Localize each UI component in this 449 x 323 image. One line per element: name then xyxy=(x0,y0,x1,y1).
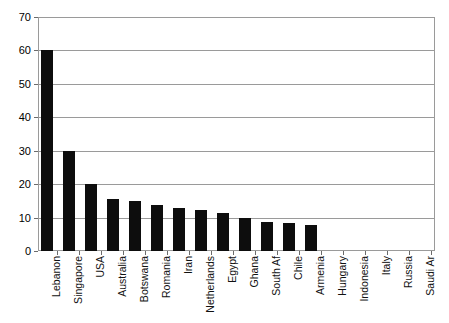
x-tick-label: Singapore xyxy=(73,256,84,304)
x-tick-mark xyxy=(255,251,256,255)
bar xyxy=(261,222,273,251)
x-tick-mark xyxy=(409,251,410,255)
y-axis: 010203040506070 xyxy=(0,0,38,260)
x-tick-label: Hungary xyxy=(337,256,348,296)
bar xyxy=(107,199,119,251)
x-tick-label: Lebanon xyxy=(51,256,62,297)
bars-layer xyxy=(38,17,435,251)
bar-chart-figure: 010203040506070 LebanonSingaporeUSAAustr… xyxy=(0,0,449,323)
bar xyxy=(129,201,141,251)
x-tick-mark xyxy=(211,251,212,255)
x-axis: LebanonSingaporeUSAAustraliaBotswanaRoma… xyxy=(38,256,435,323)
x-tick-label: USA xyxy=(95,256,106,278)
y-tick-label: 50 xyxy=(19,79,31,90)
y-tick-label: 60 xyxy=(19,45,31,56)
y-tick-label: 20 xyxy=(19,179,31,190)
x-tick-mark xyxy=(79,251,80,255)
x-tick-mark xyxy=(387,251,388,255)
x-tick-mark xyxy=(123,251,124,255)
x-tick-mark xyxy=(431,251,432,255)
bar xyxy=(85,184,97,251)
x-tick-mark xyxy=(321,251,322,255)
x-tick-label: South Af xyxy=(271,256,282,296)
x-tick-mark xyxy=(233,251,234,255)
y-tick-label: 30 xyxy=(19,146,31,157)
x-tick-label: Indonesia xyxy=(359,256,370,302)
bar xyxy=(195,210,207,251)
bar xyxy=(41,50,53,251)
bar xyxy=(151,205,163,251)
x-tick-mark xyxy=(167,251,168,255)
y-tick-label: 70 xyxy=(19,12,31,23)
bar xyxy=(63,151,75,251)
x-axis-ticks xyxy=(38,251,435,255)
bar xyxy=(173,208,185,251)
bar xyxy=(283,223,295,251)
x-tick-mark xyxy=(189,251,190,255)
x-tick-mark xyxy=(277,251,278,255)
x-tick-mark xyxy=(57,251,58,255)
x-tick-mark xyxy=(365,251,366,255)
x-tick-label: Egypt xyxy=(227,256,238,283)
x-tick-label: Saudi Ar xyxy=(425,256,436,296)
x-tick-mark xyxy=(343,251,344,255)
x-tick-label: Iran xyxy=(183,256,194,274)
x-tick-label: Chile xyxy=(293,256,304,280)
x-tick-label: Ghana xyxy=(249,256,260,288)
x-tick-label: Italy xyxy=(381,256,392,275)
chart-title xyxy=(0,0,449,3)
y-tick-label: 0 xyxy=(25,246,31,257)
x-tick-label: Armenia xyxy=(315,256,326,295)
x-tick-label: Romania xyxy=(161,256,172,298)
y-tick-label: 40 xyxy=(19,112,31,123)
x-tick-label: Russia xyxy=(403,256,414,288)
x-tick-mark xyxy=(299,251,300,255)
x-tick-label: Netherlands xyxy=(205,256,216,313)
x-tick-label: Australia xyxy=(117,256,128,297)
x-tick-label: Botswana xyxy=(139,256,150,302)
x-tick-mark xyxy=(145,251,146,255)
y-tick-label: 10 xyxy=(19,213,31,224)
x-tick-mark xyxy=(101,251,102,255)
bar xyxy=(239,218,251,251)
bar xyxy=(305,225,317,251)
bar xyxy=(217,213,229,251)
